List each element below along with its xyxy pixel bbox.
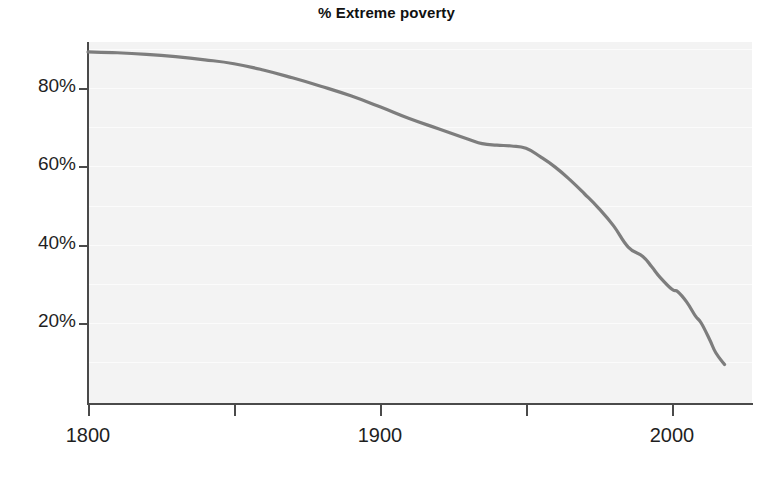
y-tick-mark bbox=[79, 323, 88, 325]
gridline bbox=[89, 49, 752, 50]
gridline bbox=[89, 323, 752, 324]
gridline bbox=[89, 284, 752, 285]
x-tick-mark bbox=[672, 405, 674, 416]
chart-container: % Extreme poverty 80%60%40%20% 180019002… bbox=[0, 0, 773, 477]
x-tick-mark bbox=[88, 405, 90, 416]
gridline bbox=[89, 362, 752, 363]
y-axis-spine bbox=[87, 42, 89, 405]
gridline bbox=[89, 127, 752, 128]
gridline bbox=[89, 245, 752, 246]
x-tick-label: 1900 bbox=[340, 424, 420, 447]
gridline bbox=[89, 206, 752, 207]
plot-area bbox=[89, 42, 752, 404]
y-tick-label: 40% bbox=[38, 232, 76, 254]
x-minor-tick-mark bbox=[234, 405, 236, 416]
gridline bbox=[89, 166, 752, 167]
gridline bbox=[89, 88, 752, 89]
y-tick-label: 20% bbox=[38, 310, 76, 332]
x-axis-spine bbox=[87, 403, 753, 405]
y-tick-label: 60% bbox=[38, 153, 76, 175]
x-tick-label: 1800 bbox=[48, 424, 128, 447]
y-tick-mark bbox=[79, 245, 88, 247]
x-tick-label: 2000 bbox=[632, 424, 712, 447]
x-minor-tick-mark bbox=[526, 405, 528, 416]
y-tick-mark bbox=[79, 88, 88, 90]
chart-title: % Extreme poverty bbox=[0, 4, 773, 21]
y-tick-mark bbox=[79, 166, 88, 168]
x-tick-mark bbox=[380, 405, 382, 416]
y-tick-label: 80% bbox=[38, 75, 76, 97]
